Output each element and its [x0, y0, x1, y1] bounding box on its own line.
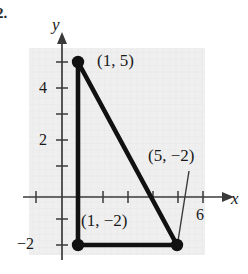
vertex-dot-1-5 [72, 56, 84, 68]
x-tick-label-6: 6 [196, 207, 204, 223]
vertex-dot-1-neg2 [72, 239, 84, 251]
point-label-1-negative-2: (1, −2) [81, 212, 127, 229]
vertex-dot-5-neg2 [171, 239, 183, 251]
y-tick-label-negative-2: −2 [17, 236, 34, 252]
y-tick-label-4: 4 [39, 80, 47, 96]
coordinate-plane-figure: 2. y x 4 2 −2 6 (1, 5) (5, −2) (1, −2) [0, 0, 248, 274]
y-axis-label: y [52, 16, 60, 33]
x-axis-label: x [231, 190, 239, 207]
point-label-1-5: (1, 5) [97, 52, 134, 69]
problem-number: 2. [0, 6, 7, 21]
y-tick-label-2: 2 [39, 132, 47, 148]
point-label-5-negative-2: (5, −2) [148, 147, 194, 164]
graph-canvas [0, 0, 248, 274]
